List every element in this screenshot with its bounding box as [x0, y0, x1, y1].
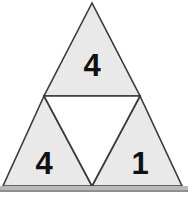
baseline-band-shadow	[0, 190, 188, 192]
triangle-top-label: 4	[83, 48, 101, 83]
triangle-bottom-right-label: 1	[131, 146, 148, 181]
subdivided-triangle-figure: 4 4 1	[0, 0, 188, 199]
figure-root: 4 4 1	[0, 0, 188, 199]
triangle-bottom-left-label: 4	[35, 146, 53, 181]
